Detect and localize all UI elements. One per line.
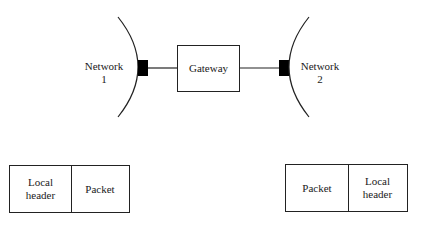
network-1-number: 1 <box>80 73 128 86</box>
frame-left-packet-label: Packet <box>85 183 114 196</box>
network-2-port <box>279 60 289 76</box>
frame-left-header-line1: Local <box>26 176 55 189</box>
frame-right: Packet Local header <box>285 164 408 212</box>
frame-right-header-line2: header <box>363 188 392 201</box>
network-1-label: Network 1 <box>80 60 128 86</box>
frame-left-header-line2: header <box>26 189 55 202</box>
frame-left: Local header Packet <box>9 165 130 213</box>
frame-left-packet-cell: Packet <box>71 166 129 212</box>
frame-left-header-cell: Local header <box>10 166 71 212</box>
gateway-label: Gateway <box>178 46 239 91</box>
network-2-label: Network 2 <box>296 60 344 86</box>
network-2-name: Network <box>296 60 344 73</box>
frame-right-packet-label: Packet <box>302 182 331 195</box>
frame-right-header-line1: Local <box>363 175 392 188</box>
frame-right-header-cell: Local header <box>348 165 407 211</box>
network-2-number: 2 <box>296 73 344 86</box>
network-1-port <box>138 60 148 76</box>
frame-right-packet-cell: Packet <box>286 165 348 211</box>
gateway-box: Gateway <box>177 45 240 92</box>
network-1-name: Network <box>80 60 128 73</box>
